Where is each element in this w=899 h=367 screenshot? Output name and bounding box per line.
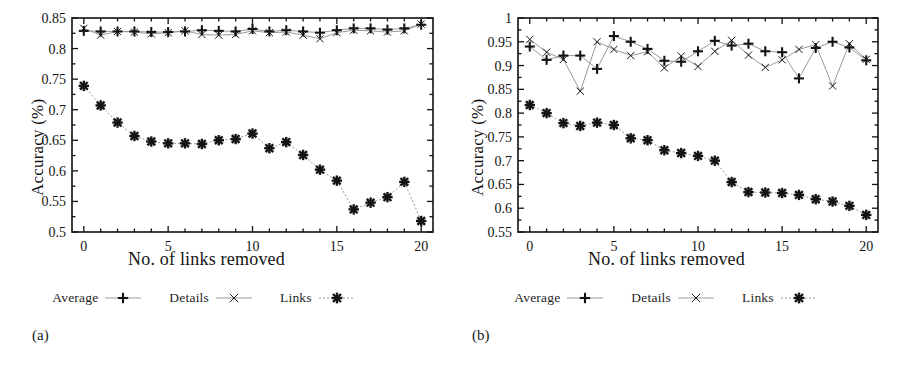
svg-text:0.8: 0.8 [495,106,513,121]
svg-text:0.7: 0.7 [495,154,513,169]
plot-svg-a: 051015200.50.550.60.650.70.750.80.85 [0,0,449,285]
svg-text:0.65: 0.65 [488,177,513,192]
legend-b: AverageDetailsLinks [442,290,891,306]
chart-panel-a: 051015200.50.550.60.650.70.750.80.85 Acc… [0,0,449,367]
legend-label: Details [169,290,209,306]
legend-label: Links [742,290,774,306]
svg-text:0.55: 0.55 [488,225,513,240]
plot-area-a: 051015200.50.550.60.650.70.750.80.85 [0,0,449,285]
y-axis-title-a: Accuracy (%) [28,99,48,196]
panel-caption-a: (a) [32,327,49,344]
legend-entry-average: Average [52,290,143,306]
x-marker [676,290,716,306]
svg-text:1: 1 [505,11,512,26]
legend-label: Links [280,290,312,306]
legend-entry-details: Details [169,290,254,306]
legend-label: Details [631,290,671,306]
x-axis-title-b: No. of links removed [442,249,891,270]
y-axis-title-b: Accuracy (%) [468,99,488,196]
legend-entry-details: Details [631,290,716,306]
svg-text:0.8: 0.8 [49,42,67,57]
plot-svg-b: 051015200.550.60.650.70.750.80.850.90.95… [450,0,899,285]
legend-entry-links: Links [280,290,357,306]
svg-text:0.95: 0.95 [488,35,513,50]
plot-area-b: 051015200.550.60.650.70.750.80.850.90.95… [450,0,899,285]
svg-text:0.75: 0.75 [488,130,513,145]
svg-text:0.85: 0.85 [488,82,513,97]
svg-text:0.75: 0.75 [42,72,67,87]
svg-text:0.85: 0.85 [42,11,67,26]
plus-marker [565,290,605,306]
svg-text:0.5: 0.5 [49,225,67,240]
svg-text:0.6: 0.6 [49,164,67,179]
x-marker [214,290,254,306]
star-marker [779,290,819,306]
panel-caption-b: (b) [472,327,490,344]
figure-root: 051015200.50.550.60.650.70.750.80.85 Acc… [0,0,899,367]
plus-marker [103,290,143,306]
svg-text:0.6: 0.6 [495,201,513,216]
x-axis-title-a: No. of links removed [0,249,431,270]
legend-entry-links: Links [742,290,819,306]
svg-text:0.7: 0.7 [49,103,67,118]
svg-text:0.55: 0.55 [42,194,67,209]
legend-entry-average: Average [514,290,605,306]
svg-text:0.9: 0.9 [495,59,513,74]
star-marker [317,290,357,306]
legend-a: AverageDetailsLinks [0,290,429,306]
legend-label: Average [514,290,560,306]
legend-label: Average [52,290,98,306]
chart-panel-b: 051015200.550.60.650.70.750.80.850.90.95… [450,0,899,367]
